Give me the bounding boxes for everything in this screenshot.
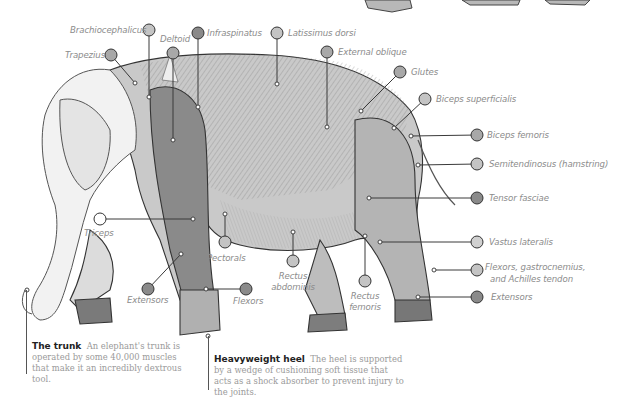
dot-triceps	[94, 213, 106, 225]
dot-pectorals	[219, 236, 231, 248]
heel-caption-pointer	[208, 336, 209, 390]
dot-biceps-femoris	[471, 129, 483, 141]
label-rectus-femoris-line2: femoris	[345, 302, 385, 312]
dot-deltoid	[167, 47, 179, 59]
label-flexors-fore: Flexors	[233, 296, 263, 306]
dot-rectus-abdominis	[287, 255, 299, 267]
label-triceps: Triceps	[84, 228, 114, 238]
dot-infraspinatus	[192, 27, 204, 39]
dot-flexors-fore	[240, 283, 252, 295]
dot-trapezius	[105, 49, 117, 61]
caption-heel-heading: Heavyweight heel	[214, 354, 305, 364]
elephant-anatomy-diagram: Brachiocephalicus Trapezius Deltoid Infr…	[0, 0, 621, 406]
label-biceps-superficialis: Biceps superficialis	[436, 94, 516, 104]
dot-tensor-fasciae	[471, 192, 483, 204]
dot-external-oblique	[321, 46, 333, 58]
elephant-tail	[418, 140, 455, 205]
dot-latissimus	[271, 27, 283, 39]
label-trapezius: Trapezius	[65, 50, 105, 60]
caption-trunk: The trunk An elephant's trunk is operate…	[32, 341, 192, 385]
dot-vastus-lateralis	[471, 236, 483, 248]
dot-biceps-superficialis	[419, 93, 431, 105]
dot-glutes	[394, 66, 406, 78]
label-brachiocephalicus: Brachiocephalicus	[70, 25, 146, 35]
dot-extensors-hind	[471, 291, 483, 303]
caption-trunk-heading: The trunk	[32, 341, 81, 351]
label-flexors-hind-line2: and Achilles tendon	[490, 274, 573, 284]
label-vastus-lateralis: Vastus lateralis	[489, 237, 553, 247]
label-glutes: Glutes	[411, 67, 438, 77]
label-pectorals: Pectorals	[207, 253, 246, 263]
trunk-caption-pointer	[26, 290, 27, 374]
label-external-oblique: External oblique	[338, 47, 407, 57]
label-biceps-femoris: Biceps femoris	[487, 130, 549, 140]
caption-heel: Heavyweight heel The heel is supported b…	[214, 354, 404, 398]
label-semitendinosus: Semitendinosus (hamstring)	[489, 159, 608, 169]
dot-extensors-fore	[142, 283, 154, 295]
label-infraspinatus: Infraspinatus	[207, 28, 262, 38]
label-rectus-femoris-line1: Rectus	[345, 291, 385, 301]
top-sketch-fragments	[365, 0, 590, 12]
dot-rectus-femoris	[359, 275, 371, 287]
label-tensor-fasciae: Tensor fasciae	[489, 193, 549, 203]
label-rectus-abdominis-line1: Rectus	[268, 271, 318, 281]
dot-flexors-hind	[471, 264, 483, 276]
label-extensors-fore: Extensors	[127, 295, 168, 305]
label-rectus-abdominis-line2: abdominis	[268, 282, 318, 292]
label-latissimus-dorsi: Latissimus dorsi	[288, 28, 356, 38]
label-deltoid: Deltoid	[160, 34, 190, 44]
dot-semitendinosus	[471, 158, 483, 170]
label-flexors-hind-line1: Flexors, gastrocnemius,	[485, 262, 585, 272]
label-extensors-hind: Extensors	[491, 292, 532, 302]
